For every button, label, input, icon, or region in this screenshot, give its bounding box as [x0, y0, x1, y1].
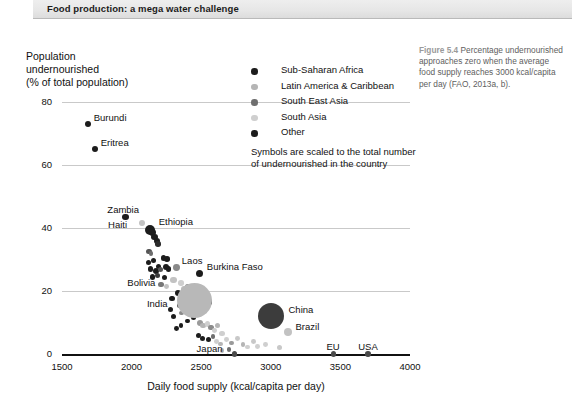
data-point-japan: [232, 351, 238, 357]
point-label-burkina-faso: Burkina Faso: [207, 261, 263, 272]
chart-legend: Sub-Saharan AfricaLatin America & Caribb…: [248, 64, 418, 142]
legend-marker-icon: [251, 99, 258, 106]
data-point: [219, 331, 225, 337]
point-label-usa: USA: [358, 341, 378, 352]
point-label-haiti: Haiti: [108, 219, 127, 230]
data-point: [255, 344, 260, 349]
data-point-bolivia: [170, 277, 176, 283]
data-point: [155, 241, 161, 247]
data-point-haiti: [139, 220, 145, 226]
data-point: [277, 345, 282, 350]
legend-item[interactable]: Other: [248, 126, 418, 142]
data-point: [215, 323, 220, 328]
banner-title: Food production: a mega water challenge: [47, 3, 239, 14]
x-axis-tick-label: 1500: [39, 361, 85, 372]
data-point: [174, 326, 179, 331]
data-point: [245, 345, 250, 350]
data-point: [178, 280, 184, 286]
x-axis-tick-label: 4000: [387, 361, 433, 372]
x-axis-tick-label: 3500: [317, 361, 363, 372]
legend-marker-icon: [251, 130, 258, 137]
data-point: [164, 284, 169, 289]
y-axis-tick-label: 40: [22, 222, 52, 233]
data-point-burkina-faso: [196, 270, 203, 277]
data-point: [169, 296, 174, 301]
data-point: [229, 341, 234, 346]
data-point-usa: [365, 351, 371, 357]
legend-item[interactable]: Latin America & Caribbean: [248, 80, 418, 96]
x-axis-tick-label: 2000: [109, 361, 155, 372]
data-point-burundi: [85, 121, 91, 127]
data-point-china: [258, 303, 284, 329]
figure-number: Figure 5.4: [419, 45, 458, 55]
data-point: [155, 273, 160, 278]
data-point-eu: [331, 351, 337, 357]
data-point: [162, 275, 167, 280]
data-point: [185, 319, 190, 324]
legend-item[interactable]: Sub-Saharan Africa: [248, 64, 418, 80]
point-label-brazil: Brazil: [296, 321, 320, 332]
data-point: [200, 336, 205, 341]
point-label-ethiopia: Ethiopia: [159, 216, 193, 227]
data-point-ethiopia: [145, 225, 155, 235]
legend-item-label: South Asia: [281, 111, 326, 122]
data-point: [251, 339, 256, 344]
legend-marker-icon: [251, 68, 258, 75]
data-point-brazil: [284, 328, 292, 336]
legend-marker-icon: [251, 84, 258, 91]
point-label-eritrea: Eritrea: [101, 137, 129, 148]
data-point: [224, 337, 229, 342]
data-point-eritrea: [92, 146, 98, 152]
scatter-chart: Population undernourished (% of total po…: [0, 19, 419, 412]
legend-item-label: Latin America & Caribbean: [281, 80, 394, 91]
legend-item-label: South East Asia: [281, 95, 348, 106]
legend-item-label: Sub-Saharan Africa: [281, 64, 363, 75]
legend-item[interactable]: South Asia: [248, 111, 418, 127]
point-label-laos: Laos: [182, 255, 203, 266]
y-axis-tick-label: 20: [22, 285, 52, 296]
data-point: [235, 336, 240, 341]
x-axis-tick-label: 2500: [178, 361, 224, 372]
x-axis-title: Daily food supply (kcal/capita per day): [62, 380, 410, 392]
data-point-laos: [173, 264, 180, 271]
legend-item[interactable]: South East Asia: [248, 95, 418, 111]
data-point: [166, 266, 172, 272]
data-point: [151, 258, 156, 263]
page-banner: Food production: a mega water challenge: [33, 0, 572, 19]
legend-marker-icon: [251, 115, 258, 122]
data-point: [227, 347, 232, 352]
point-label-burundi: Burundi: [94, 112, 127, 123]
x-axis-tick-label: 3000: [248, 361, 294, 372]
figure-caption: Figure 5.4 Percentage undernourished app…: [419, 45, 565, 90]
legend-item-label: Other: [281, 126, 305, 137]
point-label-bolivia: Bolivia: [127, 277, 155, 288]
data-point: [164, 256, 170, 262]
y-axis-tick-label: 60: [22, 159, 52, 170]
data-point: [149, 251, 154, 256]
point-label-india: India: [147, 298, 168, 309]
data-point: [168, 307, 173, 312]
point-label-china: China: [288, 304, 313, 315]
legend-note: Symbols are scaled to the total number o…: [251, 146, 419, 171]
data-point: [263, 342, 268, 347]
data-point: [146, 260, 152, 266]
y-axis-tick-label: 80: [22, 96, 52, 107]
point-label-japan: Japan: [197, 343, 223, 354]
data-point: [158, 282, 164, 288]
point-label-zambia: Zambia: [107, 204, 139, 215]
data-point-india: [177, 283, 212, 318]
y-axis-tick-label: 0: [22, 348, 52, 359]
data-point: [212, 328, 217, 333]
data-point: [171, 314, 176, 319]
gridline: [62, 291, 410, 292]
point-label-eu: EU: [326, 341, 339, 352]
data-point: [179, 323, 184, 328]
